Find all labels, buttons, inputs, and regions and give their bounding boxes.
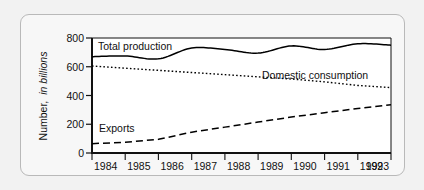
- y-tick-label-200: 200: [66, 118, 84, 130]
- series-label-exports: Exports: [99, 122, 135, 134]
- x-tick-label-1984: 1984: [94, 160, 118, 172]
- y-axis-title: Number, in billions: [37, 51, 49, 141]
- y-tick-label-400: 400: [66, 90, 84, 102]
- line-chart: Number, in billions 800 600 400 200 0: [0, 0, 424, 190]
- y-tick-label-800: 800: [66, 32, 84, 44]
- figure-root: Number, in billions 800 600 400 200 0: [0, 0, 424, 190]
- x-tick-label-1990: 1990: [293, 160, 317, 172]
- series-label-domestic-consumption: Domestic consumption: [262, 69, 368, 81]
- plot-background: [92, 38, 391, 153]
- series-label-total-production: Total production: [98, 40, 172, 52]
- svg-text:Number, in billions: Number, in billions: [37, 51, 49, 141]
- x-tick-label-1986: 1986: [160, 160, 184, 172]
- x-tick-label-1987: 1987: [194, 160, 218, 172]
- y-axis-title-italic: in billions: [37, 51, 49, 95]
- y-tick-label-0: 0: [78, 147, 84, 159]
- x-axis-ticks: [92, 153, 391, 160]
- x-tick-label-1991: 1991: [327, 160, 351, 172]
- x-tick-label-1985: 1985: [127, 160, 151, 172]
- x-axis-labels: 1984 1985 1986 1987 1988 1989 1990 1991 …: [94, 160, 389, 172]
- x-tick-label-1988: 1988: [227, 160, 251, 172]
- y-tick-label-600: 600: [66, 61, 84, 73]
- y-axis-title-plain: Number,: [37, 101, 49, 141]
- plot-frame: [91, 38, 391, 153]
- x-tick-label-1993: 1993: [366, 160, 390, 172]
- x-tick-label-1989: 1989: [260, 160, 284, 172]
- y-axis: 800 600 400 200 0: [66, 32, 92, 159]
